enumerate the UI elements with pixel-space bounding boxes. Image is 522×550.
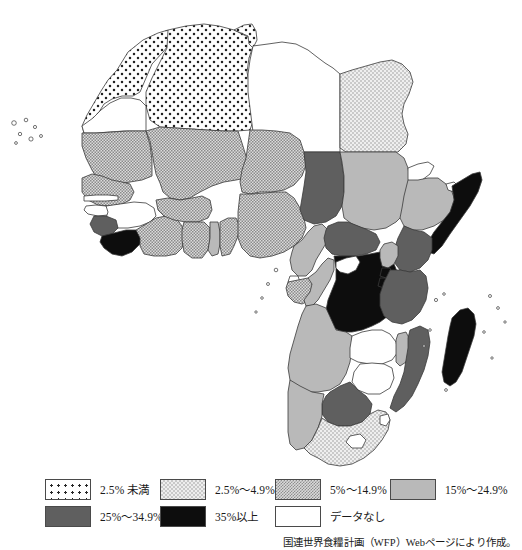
legend-swatch-p25-349 — [45, 506, 91, 527]
region-gambia — [84, 195, 118, 201]
legend-swatch-p35plus — [160, 506, 206, 527]
region-zimbabwe — [352, 363, 394, 394]
region-kenya — [394, 226, 432, 272]
legend-swatch-p5-149 — [275, 479, 321, 500]
legend-swatch-p15-249 — [390, 479, 436, 500]
africa-choropleth-map — [0, 0, 522, 470]
legend-label-p15-249: 15%〜24.9% — [445, 481, 508, 497]
legend-item-nodata[interactable]: データなし — [275, 504, 386, 528]
legend-label-nodata: データなし — [330, 508, 386, 524]
source-attribution: 国連世界食糧計画（WFP）Webページにより作成。 — [283, 534, 516, 549]
legend-item-p5-149[interactable]: 5%〜14.9% — [275, 477, 387, 501]
map-legend: 2.5% 未満 2.5%〜4.9% 5%〜14.9% 15%〜24.9% 25%… — [0, 470, 522, 532]
cape-verde-islands — [12, 118, 43, 144]
legend-swatch-nodata — [275, 506, 321, 527]
legend-swatch-lt25 — [45, 479, 91, 500]
region-tanzania — [380, 270, 428, 324]
hunger-map-figure: 2.5% 未満 2.5%〜4.9% 5%〜14.9% 15%〜24.9% 25%… — [0, 0, 522, 550]
region-zambia — [350, 330, 398, 364]
legend-item-p15-249[interactable]: 15%〜24.9% — [390, 477, 508, 501]
region-niger — [240, 130, 306, 194]
legend-row-2: 25%〜34.9% 35%以上 データなし — [0, 504, 522, 530]
region-madagascar — [442, 308, 476, 386]
legend-label-p25-49: 2.5%〜4.9% — [215, 481, 275, 497]
region-mali — [146, 127, 250, 200]
legend-row-1: 2.5% 未満 2.5%〜4.9% 5%〜14.9% 15%〜24.9% — [0, 477, 522, 503]
legend-label-p5-149: 5%〜14.9% — [330, 481, 387, 497]
legend-label-p25-349: 25%〜34.9% — [100, 508, 163, 524]
legend-label-lt25: 2.5% 未満 — [100, 481, 150, 497]
legend-item-p25-349[interactable]: 25%〜34.9% — [45, 504, 163, 528]
legend-label-p35plus: 35%以上 — [215, 508, 259, 524]
region-chad — [300, 152, 344, 224]
region-togo — [208, 222, 220, 256]
legend-item-p35plus[interactable]: 35%以上 — [160, 504, 259, 528]
region-benin — [220, 218, 240, 256]
legend-item-lt25[interactable]: 2.5% 未満 — [45, 477, 150, 501]
gulf-of-guinea-islands — [255, 268, 278, 313]
legend-item-p25-49[interactable]: 2.5%〜4.9% — [160, 477, 275, 501]
region-egypt — [340, 60, 413, 152]
legend-swatch-p25-49 — [160, 479, 206, 500]
region-ghana — [182, 222, 210, 258]
map-container — [0, 0, 522, 470]
